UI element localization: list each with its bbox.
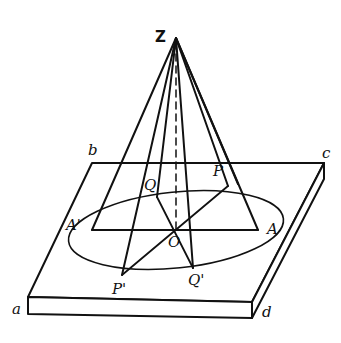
label-A-prime: A' bbox=[66, 218, 81, 233]
label-b: b bbox=[88, 143, 98, 158]
label-Z: Z bbox=[155, 30, 166, 45]
label-A: A bbox=[267, 222, 278, 237]
label-c: c bbox=[322, 146, 330, 161]
label-O: O bbox=[168, 235, 180, 250]
label-d: d bbox=[262, 305, 272, 320]
cone-plate-diagram: Z b c Q P A' O A P' Q' a d bbox=[0, 0, 341, 343]
diagram-svg bbox=[0, 0, 341, 343]
label-a: a bbox=[12, 302, 21, 317]
label-Q-prime: Q' bbox=[188, 273, 204, 288]
label-P-prime: P' bbox=[112, 282, 126, 297]
label-Q: Q bbox=[144, 178, 156, 193]
label-P: P bbox=[213, 164, 223, 179]
